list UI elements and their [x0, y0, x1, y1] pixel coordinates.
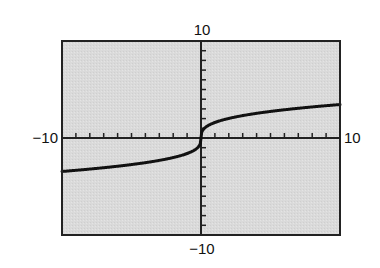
y-max-label: 10	[190, 22, 214, 37]
x-max-label: 10	[344, 130, 361, 145]
x-min-label: −10	[20, 130, 58, 145]
y-min-label: −10	[184, 241, 220, 256]
